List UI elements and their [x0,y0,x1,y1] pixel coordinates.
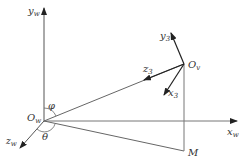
x3-label: x3 [168,87,179,100]
z3-label: z3 [142,63,153,76]
zw-axis [20,121,44,148]
ov-label: Ov [188,59,200,72]
ow-m-line [44,121,184,151]
xw-label: xw [227,126,239,139]
ow-label: Ow [27,112,41,125]
y3-axis [171,33,184,64]
x3-axis [164,64,184,95]
m-label: M [187,147,199,158]
yw-label: yw [27,5,40,18]
phi-label: φ [48,100,55,111]
theta-label: θ [42,131,48,142]
coordinate-diagram: yw xw zw y3 z3 x3 Ov Ow M φ θ [0,0,245,159]
y3-label: y3 [159,30,171,43]
zw-label: zw [5,136,17,148]
